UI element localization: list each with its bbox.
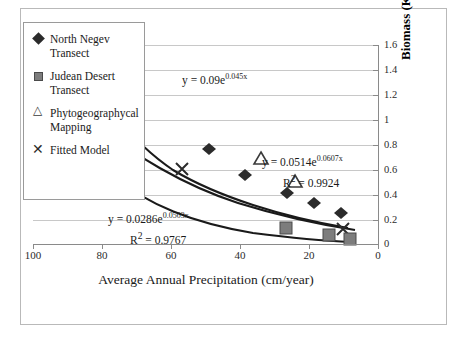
xtick-label-80: 80 xyxy=(82,250,122,261)
ytick-mark-0.6 xyxy=(373,170,379,171)
filled-diamond-icon xyxy=(32,32,50,46)
r2-phytogeographical-value: = 0.9924 xyxy=(295,177,339,189)
legend: North Negev Transect Judean Desert Trans… xyxy=(23,22,145,200)
xtick-label-40: 40 xyxy=(220,250,260,261)
cross-x-icon: ✕ xyxy=(32,143,50,157)
equation-judean-desert: y = 0.0286e0.0503x xyxy=(108,209,189,226)
ytick-mark-1 xyxy=(373,120,379,121)
marker-diamond-5 xyxy=(334,207,348,219)
ytick-label-1.4: 1.4 xyxy=(384,65,410,76)
legend-label-north-negev-line1: North Negev xyxy=(50,32,110,46)
legend-item-phytogeographical[interactable]: Phytogeographycal Mapping xyxy=(32,106,144,134)
marker-diamond-4 xyxy=(307,197,321,209)
legend-label-north-negev-line2: Transect xyxy=(50,46,110,60)
ytick-mark-1.4 xyxy=(373,70,379,71)
x-axis-line xyxy=(33,244,379,245)
r2-phytogeographical-label: R xyxy=(283,177,291,189)
filled-square-icon xyxy=(32,69,50,83)
ytick-label-0.4: 0.4 xyxy=(384,190,410,201)
equation-north-negev-exponent: 0.045x xyxy=(225,72,247,81)
equation-north-negev: y = 0.09e0.045x xyxy=(182,70,247,87)
legend-label-phytogeographical-line1: Phytogeographycal xyxy=(50,106,139,120)
xtick-label-20: 20 xyxy=(289,250,329,261)
legend-label-judean-desert-line2: Transect xyxy=(50,83,115,97)
legend-label-phytogeographical-line2: Mapping xyxy=(50,120,139,134)
y-axis-title: Biomass (Kg/m²) xyxy=(398,0,414,60)
open-triangle-icon xyxy=(32,106,50,120)
equation-judean-desert-exponent: 0.0503x xyxy=(163,211,189,220)
ytick-label-0.8: 0.8 xyxy=(384,140,410,151)
equation-judean-desert-text: y = 0.0286e xyxy=(108,213,163,225)
r2-judean-desert-label: R xyxy=(130,234,138,246)
r2-judean-desert-value: = 0.9767 xyxy=(142,234,186,246)
legend-item-fitted-model[interactable]: ✕ Fitted Model xyxy=(32,143,144,157)
legend-item-judean-desert[interactable]: Judean Desert Transect xyxy=(32,69,144,97)
marker-diamond-1 xyxy=(202,143,216,155)
ytick-mark-1.6 xyxy=(373,45,379,46)
ytick-mark-0.8 xyxy=(373,145,379,146)
legend-label-fitted-model: Fitted Model xyxy=(50,143,110,157)
x-axis-title: Average Annual Precipitation (cm/year) xyxy=(33,272,379,288)
xtick-label-100: 100 xyxy=(13,250,53,261)
ytick-label-1.2: 1.2 xyxy=(384,90,410,101)
ytick-mark-0.4 xyxy=(373,195,379,196)
xtick-label-0: 0 xyxy=(358,250,398,261)
marker-square-3 xyxy=(323,229,335,241)
ytick-label-1: 1 xyxy=(384,115,410,126)
equation-phytogeographical-exponent: 0.0607x xyxy=(317,154,343,163)
ytick-label-0.2: 0.2 xyxy=(384,215,410,226)
equation-phytogeographical-text: y = 0.0514e xyxy=(262,156,317,168)
ytick-label-0.6: 0.6 xyxy=(384,165,410,176)
figure: 1.6 1.4 1.2 1 0.8 0.6 0.4 0.2 0 100 80 6… xyxy=(0,0,465,346)
r2-judean-desert: R2 = 0.9767 xyxy=(130,229,186,247)
equation-phytogeographical: y = 0.0514e0.0607x xyxy=(262,152,343,169)
ytick-label-0: 0 xyxy=(384,239,410,250)
marker-x-2 xyxy=(176,163,188,175)
marker-square-2 xyxy=(280,222,292,234)
ytick-mark-1.2 xyxy=(373,95,379,96)
ytick-mark-0.2 xyxy=(373,220,379,221)
xtick-label-60: 60 xyxy=(151,250,191,261)
equation-north-negev-text: y = 0.09e xyxy=(182,74,225,86)
r2-phytogeographical: R2 = 0.9924 xyxy=(283,172,339,190)
legend-item-north-negev[interactable]: North Negev Transect xyxy=(32,32,144,60)
marker-diamond-2 xyxy=(238,169,252,181)
legend-label-judean-desert-line1: Judean Desert xyxy=(50,69,115,83)
